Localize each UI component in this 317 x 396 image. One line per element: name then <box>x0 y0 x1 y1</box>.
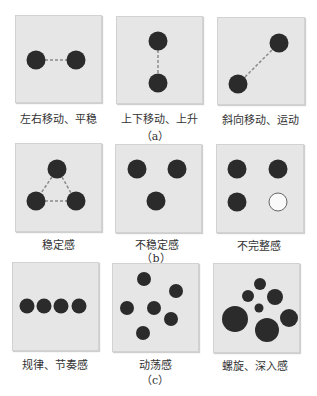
label-diagonal-move: 斜向移动、运动 <box>205 111 315 127</box>
caption-b: （b） <box>136 249 176 265</box>
label-spiral: 螺旋、深入感 <box>200 357 310 373</box>
caption-c: （c） <box>135 371 175 387</box>
label-horizontal-move: 左右移动、平稳 <box>3 110 113 126</box>
label-vertical-move: 上下移动、上升 <box>104 110 214 126</box>
label-turbulent: 动荡感 <box>100 356 210 372</box>
caption-a: （a） <box>135 127 175 143</box>
label-incomplete: 不完整感 <box>204 237 314 253</box>
label-rhythm: 规律、节奏感 <box>0 356 110 372</box>
dot-diagram <box>0 0 317 396</box>
label-stable: 稳定感 <box>3 236 113 252</box>
